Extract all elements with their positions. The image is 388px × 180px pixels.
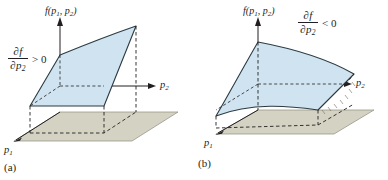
panel-caption-b: (b) [198,158,211,169]
axis-p2-arrow-a [148,83,156,89]
axis-label-f-b-close: ) [271,5,274,16]
derivative-denominator-b: ∂p2 [298,23,317,37]
surface-b-shape [216,42,354,116]
derivative-numerator-a: ∂f [12,46,25,58]
derivative-fraction-b: ∂f ∂p2 [298,10,318,37]
axis-label-f-a: f(p1, p2) [45,6,76,18]
panel-a: f(p1, p2) p2 p1 ∂f ∂p2 > 0 (a) [0,0,194,180]
axis-label-p2-a: p2 [160,80,169,92]
derivative-denominator-b-var: ∂p [300,23,311,35]
derivative-relation-b: < 0 [322,18,336,29]
axis-label-f-a-close: ) [73,5,76,16]
base-plane-b [216,110,374,134]
axis-f-arrow-a [57,17,63,26]
axis-label-p1-a: p1 [4,145,13,157]
axis-label-p2-b: p2 [356,78,365,90]
axis-label-p2-b-sub: 2 [361,82,365,90]
derivative-denominator-a-var: ∂p [10,59,21,71]
derivative-denominator-a-sub: 2 [22,64,26,73]
axis-label-p1-b: p1 [204,138,213,150]
derivative-fraction-a: ∂f ∂p2 [8,46,28,73]
axis-label-f-b: f(p1, p2) [243,6,274,18]
axis-label-p1-b-sub: 1 [209,142,213,150]
axis-label-p2-a-sub: 2 [165,84,169,92]
figure-root: f(p1, p2) p2 p1 ∂f ∂p2 > 0 (a) [0,0,388,180]
derivative-denominator-a: ∂p2 [8,59,27,73]
base-plane-a [14,112,178,141]
axis-f-arrow-b [255,17,261,26]
derivative-relation-a: > 0 [32,54,46,65]
derivative-denominator-b-sub: 2 [312,28,316,37]
derivative-label-b: ∂f ∂p2 < 0 [298,10,336,37]
panel-b-graphic [194,0,388,180]
panel-b: f(p1, p2) p2 p1 ∂f ∂p2 < 0 (b) [194,0,388,180]
derivative-label-a: ∂f ∂p2 > 0 [8,46,46,73]
panel-caption-a: (a) [4,162,16,173]
derivative-numerator-b: ∂f [302,10,315,22]
axis-label-p1-a-sub: 1 [9,149,13,157]
